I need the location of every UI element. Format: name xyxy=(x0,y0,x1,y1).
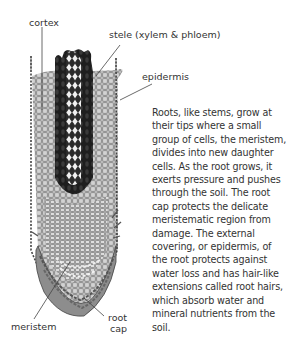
label-root-cap-line1: root xyxy=(108,312,127,323)
label-epidermis: epidermis xyxy=(142,71,189,82)
label-cortex: cortex xyxy=(29,17,59,28)
description-text: Roots, like stems, grow at their tips wh… xyxy=(152,106,287,334)
label-meristem: meristem xyxy=(11,321,56,332)
label-stele: stele (xylem & phloem) xyxy=(109,29,220,40)
stele-region xyxy=(55,49,93,194)
label-root-cap-line2: cap xyxy=(110,323,127,334)
